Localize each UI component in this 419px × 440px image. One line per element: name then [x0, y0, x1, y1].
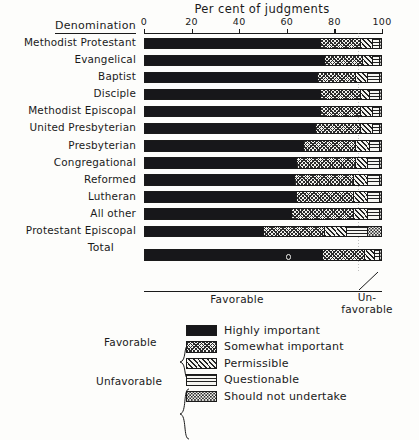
bar-segment-should-not-undertake: [379, 107, 381, 117]
bar-row: Methodist Protestant: [0, 36, 419, 53]
x-axis-tick-label-100: 100: [372, 16, 391, 27]
bar-segment-somewhat-important: [320, 39, 360, 49]
bar-segment-somewhat-important: [320, 90, 360, 100]
bar-segment-highly-important: [145, 158, 296, 168]
bar-segment-highly-important: [145, 175, 294, 185]
bar-row-label: Reformed: [0, 173, 136, 186]
bar-row: Methodist Episcopal: [0, 104, 419, 121]
bar-segment-somewhat-important: [263, 227, 324, 237]
stacked-bar: [144, 72, 382, 84]
bar-segment-should-not-undertake: [379, 158, 381, 168]
bar-segment-permissible: [360, 39, 372, 49]
stacked-bar: [144, 174, 382, 186]
bar-segment-somewhat-important: [296, 158, 355, 168]
bar-segment-somewhat-important: [324, 56, 362, 66]
bar-segment-should-not-undertake: [379, 124, 381, 134]
legend-item[interactable]: Questionable: [186, 372, 347, 389]
bar-segment-highly-important: [145, 56, 324, 66]
bar-row-label: Methodist Episcopal: [0, 104, 136, 117]
denomination-column-header: Denomination: [0, 19, 136, 32]
legend-swatch-somewhat-important: [186, 341, 217, 353]
bar-row: Lutheran: [0, 190, 419, 207]
bar-segment-should-not-undertake: [379, 39, 381, 49]
bar-segment-questionable: [367, 73, 379, 83]
bar-segment-highly-important: [145, 73, 317, 83]
legend-item-label: Somewhat important: [224, 340, 344, 353]
bar-segment-should-not-undertake: [379, 192, 381, 202]
legend-item-label: Highly important: [224, 324, 320, 337]
unfavorable-span-label: Un- favorable: [330, 292, 404, 315]
bar-segment-somewhat-important: [296, 192, 353, 202]
bar-segment-should-not-undertake: [379, 141, 381, 151]
x-axis-tick-0: [144, 29, 145, 34]
bar-row-label: Evangelical: [0, 53, 136, 66]
stacked-bar: [144, 208, 382, 220]
leader-line-icon: [357, 272, 379, 291]
bar-segment-questionable: [346, 227, 367, 237]
bar-segment-somewhat-important: [303, 141, 355, 151]
legend-item[interactable]: Permissible: [186, 355, 347, 372]
legend-item-label: Questionable: [224, 373, 299, 386]
stacked-bar: [144, 106, 382, 118]
legend-swatch-permissible: [186, 358, 217, 370]
x-axis: 020406080100: [144, 33, 382, 34]
bar-row: Baptist: [0, 70, 419, 87]
x-axis-tick-80: [334, 29, 335, 34]
bar-segment-highly-important: [145, 209, 291, 219]
unfavorable-span-label-line1: Un-: [358, 291, 377, 303]
bar-segment-questionable: [367, 192, 379, 202]
bar-segment-should-not-undertake: [367, 227, 381, 237]
bar-segment-permissible: [360, 124, 372, 134]
x-axis-tick-40: [239, 29, 240, 34]
bar-segment-questionable: [372, 39, 379, 49]
bar-segment-permissible: [364, 250, 373, 260]
legend-item[interactable]: Highly important: [186, 322, 347, 339]
bar-row: Reformed: [0, 173, 419, 190]
bar-segment-highly-important: [145, 227, 263, 237]
denomination-column-header-text: Denomination: [55, 19, 136, 34]
bar-segment-should-not-undertake: [379, 73, 381, 83]
legend-item[interactable]: Should not undertake: [186, 388, 347, 405]
bar-rows: Methodist ProtestantEvangelicalBaptistDi…: [0, 36, 419, 267]
bar-segment-permissible: [355, 158, 367, 168]
stacked-bar: [144, 55, 382, 67]
legend-swatch-highly-important: [186, 325, 217, 337]
unfavorable-span-label-line2: favorable: [341, 303, 392, 315]
stacked-bar: [144, 226, 382, 238]
x-axis-tick-label-40: 40: [233, 16, 246, 27]
bar-segment-should-not-undertake: [379, 209, 381, 219]
bar-segment-permissible: [355, 73, 367, 83]
bar-segment-somewhat-important: [322, 250, 364, 260]
x-axis-line: [144, 33, 382, 34]
bar-row-label: Presbyterian: [0, 139, 136, 152]
bar-row-label: Disciple: [0, 87, 136, 100]
bar-row-label: Methodist Protestant: [0, 36, 136, 49]
stacked-bar: [144, 191, 382, 203]
bar-row-label: Baptist: [0, 70, 136, 83]
bar-row: Protestant Episcopal: [0, 224, 419, 241]
bar-segment-permissible: [355, 141, 369, 151]
bar-row: Evangelical: [0, 53, 419, 70]
bar-segment-somewhat-important: [320, 107, 360, 117]
chart-title: Per cent of judgments: [144, 2, 380, 16]
bar-segment-somewhat-important: [291, 209, 352, 219]
bar-segment-questionable: [372, 124, 379, 134]
bar-segment-highly-important: [145, 124, 315, 134]
bar-segment-should-not-undertake: [379, 90, 381, 100]
bar-segment-permissible: [324, 227, 345, 237]
stacked-bar: [144, 140, 382, 152]
stacked-bar: [144, 249, 382, 261]
bar-row-label: Congregational: [0, 156, 136, 169]
bar-segment-somewhat-important: [315, 124, 360, 134]
bar-segment-highly-important: [145, 39, 320, 49]
x-axis-tick-60: [287, 29, 288, 34]
bar-segment-permissible: [353, 175, 367, 185]
x-axis-tick-label-80: 80: [328, 16, 341, 27]
stacked-bar: [144, 157, 382, 169]
bar-row: Total: [0, 241, 419, 267]
legend-group-unfavorable-label: Unfavorable: [96, 375, 162, 387]
legend-item[interactable]: Somewhat important: [186, 339, 347, 356]
bar-segment-highly-important: [145, 90, 320, 100]
legend-swatch-should-not-undertake: [186, 391, 217, 403]
x-axis-tick-20: [192, 29, 193, 34]
